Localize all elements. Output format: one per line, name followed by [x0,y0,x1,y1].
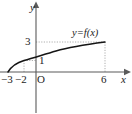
x-tick-label-neg2: −2 [15,74,27,85]
x-axis-label: x [121,74,126,85]
x-tick-label-6: 6 [101,74,107,85]
axes [0,2,131,114]
graph-canvas [0,0,132,113]
y-tick-label-1: 1 [39,55,45,66]
function-equation-label: y=f(x) [72,28,98,39]
y-axis-label: y [30,2,35,13]
function-curve [8,42,105,72]
origin-label: O [37,74,45,85]
x-tick-label-neg3: −3 [1,74,13,85]
function-graph-figure: y x O 3 1 −3 −2 6 y=f(x) [0,0,132,113]
curve-path-fx [8,42,105,72]
y-tick-label-3: 3 [25,36,31,47]
